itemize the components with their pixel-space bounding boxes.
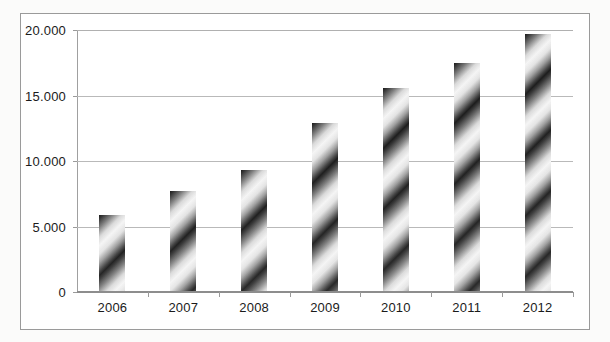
bar-2007 (170, 191, 196, 292)
bar-2010 (383, 88, 409, 292)
bar-shading (99, 215, 125, 292)
bar-shading (525, 34, 551, 292)
x-tick-mark (431, 292, 432, 297)
x-tick-mark (502, 292, 503, 297)
y-tick-label: 20.000 (25, 23, 66, 38)
gridline-20.000 (77, 30, 573, 31)
bar-2006 (99, 215, 125, 292)
x-tick-mark (360, 292, 361, 297)
x-tick-label-2011: 2011 (452, 300, 481, 315)
bar-shading (454, 63, 480, 292)
y-axis-labels: 05.00010.00015.00020.000 (0, 0, 74, 342)
y-tick-label: 0 (59, 285, 66, 300)
bar-2009 (312, 123, 338, 292)
x-tick-label-2008: 2008 (239, 300, 269, 315)
y-tick-label: 5.000 (32, 219, 66, 234)
x-tick-mark (219, 292, 220, 297)
plot-area (77, 30, 573, 292)
bar-shading (170, 191, 196, 292)
x-tick-mark (290, 292, 291, 297)
x-tick-mark (148, 292, 149, 297)
x-tick-mark (573, 292, 574, 297)
x-tick-label-2012: 2012 (523, 300, 553, 315)
bar-shading (241, 170, 267, 292)
x-tick-label-2010: 2010 (381, 300, 411, 315)
chart-root: 05.00010.00015.00020.000 200620072008200… (0, 0, 610, 342)
bar-shading (383, 88, 409, 292)
x-tick-label-2007: 2007 (168, 300, 198, 315)
x-tick-label-2009: 2009 (310, 300, 340, 315)
y-tick-label: 15.000 (25, 88, 66, 103)
x-axis-line (77, 292, 574, 293)
gridline-15.000 (77, 96, 573, 97)
x-tick-label-2006: 2006 (98, 300, 128, 315)
bar-2012 (525, 34, 551, 292)
bar-2011 (454, 63, 480, 292)
y-tick-label: 10.000 (25, 154, 66, 169)
bar-2008 (241, 170, 267, 292)
bar-shading (312, 123, 338, 292)
